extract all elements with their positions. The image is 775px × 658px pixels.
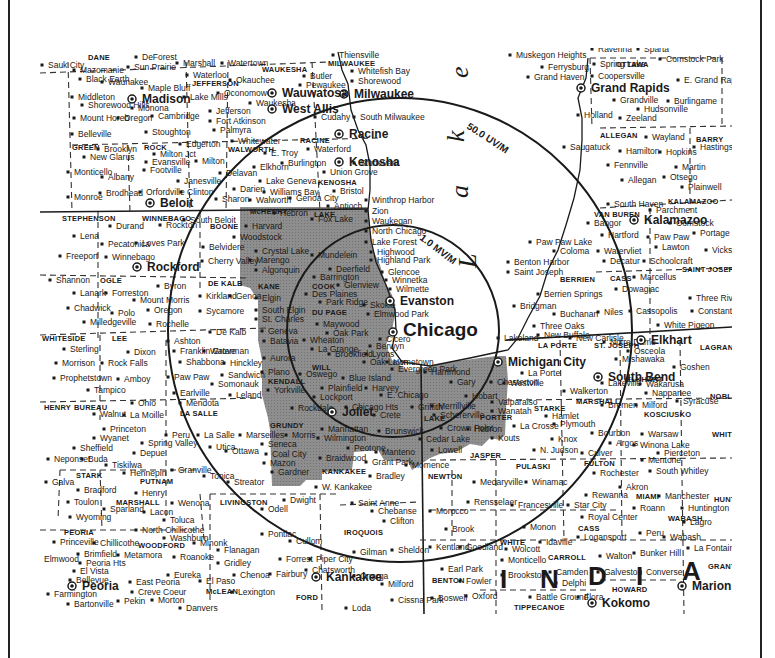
city-label: Lake Geneva	[259, 176, 317, 186]
city-marker-icon	[261, 533, 264, 536]
city-label: Coopersville	[591, 71, 646, 81]
major-city-name: Joliet	[342, 405, 373, 419]
city-marker-icon	[180, 191, 183, 194]
city-label: La Fontaine	[687, 543, 740, 553]
county-label-text: KANKAKEE	[322, 467, 366, 476]
city-label: Oregon	[147, 305, 183, 315]
city-label: Fairbury	[269, 569, 308, 579]
city-marker-icon	[147, 309, 150, 312]
county-label-text: KANE	[258, 282, 280, 291]
city-label-text: Marcellus	[640, 272, 676, 282]
city-label: Whitefish Bay	[351, 66, 411, 76]
city-label: Waterman	[203, 346, 250, 356]
city-marker-icon	[67, 501, 70, 504]
city-marker-icon	[71, 133, 74, 136]
city-label-text: Paw Paw Lake	[536, 237, 592, 247]
city-label: Marcellus	[633, 272, 677, 282]
city-marker-icon	[553, 313, 556, 316]
lake-label-a: a	[445, 185, 474, 198]
city-marker-icon	[467, 428, 470, 431]
city-marker-icon	[209, 110, 212, 113]
city-label-text: Decatur	[610, 256, 640, 266]
city-label: St. Charles	[255, 314, 305, 324]
city-marker-icon	[365, 461, 368, 464]
city-label-text: Mendota	[186, 398, 219, 408]
city-label: Toulon	[67, 497, 100, 507]
county-label-text: WAUKESHA	[262, 65, 308, 74]
city-marker-icon	[305, 293, 308, 296]
city-label: Grandville	[613, 95, 659, 105]
city-label: Ashton	[167, 336, 201, 346]
city-label: Edgerton	[179, 139, 221, 149]
city-label-text: Kirkland	[206, 291, 237, 301]
city-marker-icon	[289, 197, 292, 200]
city-label-text: Shannon	[56, 275, 90, 285]
city-marker-icon	[73, 117, 76, 120]
city-label-text: Grandville	[620, 95, 659, 105]
city-label-text: Walton	[606, 551, 632, 561]
city-label-text: Momence	[412, 460, 450, 470]
city-label: Monticello	[501, 555, 547, 565]
county-label-text: JEFFERSON	[192, 79, 239, 88]
major-city-name: Racine	[349, 127, 389, 141]
city-marker-icon	[221, 62, 224, 65]
city-label: South Milwaukee	[353, 112, 426, 122]
major-city-label: Grand Rapids	[577, 81, 670, 95]
city-marker-icon	[593, 472, 596, 475]
city-label-text: Oswego	[306, 369, 337, 379]
city-marker-icon	[83, 156, 86, 159]
major-city-name: Marion	[692, 579, 731, 593]
city-marker-icon	[370, 259, 373, 262]
city-label-text: Whitewater	[238, 136, 281, 146]
city-marker-icon	[380, 394, 383, 397]
city-marker-icon	[133, 299, 136, 302]
city-marker-icon	[239, 434, 242, 437]
city-marker-icon	[581, 452, 584, 455]
city-marker-icon	[424, 371, 427, 374]
city-marker-icon	[593, 63, 596, 66]
county-label: PEORIA	[64, 528, 94, 537]
city-marker-icon	[450, 381, 453, 384]
city-marker-icon	[433, 414, 436, 417]
city-label: Rochester	[593, 468, 639, 478]
city-marker-icon	[117, 378, 120, 381]
city-marker-icon	[209, 120, 212, 123]
city-marker-icon	[511, 504, 514, 507]
city-marker-icon	[342, 377, 345, 380]
city-marker-icon	[378, 430, 381, 433]
city-marker-icon	[135, 492, 138, 495]
city-label-text: N. Judson	[540, 445, 579, 455]
city-label: Nappanee	[645, 388, 692, 398]
major-city-label: South Bend	[594, 370, 675, 384]
city-label-text: Three Rivers	[696, 293, 745, 303]
city-label: Three Rivers	[689, 293, 745, 303]
city-label: Bourbon	[591, 428, 631, 438]
city-marker-icon	[663, 176, 666, 179]
city-marker-icon	[533, 449, 536, 452]
city-label-text: Galveston	[604, 567, 643, 577]
city-marker-icon	[131, 402, 134, 405]
city-marker-icon	[523, 526, 526, 529]
city-label: Rewanna	[585, 490, 629, 500]
city-label-text: Toulon	[74, 497, 99, 507]
city-marker-icon	[587, 222, 590, 225]
city-marker-icon	[263, 357, 266, 360]
city-marker-icon	[145, 161, 148, 164]
city-marker-icon	[367, 313, 370, 316]
city-marker-icon	[431, 449, 434, 452]
city-marker-icon	[353, 116, 356, 119]
city-label-text: Muskegon Heights	[516, 50, 586, 60]
major-city-name: Wauwatosa	[282, 86, 348, 100]
city-marker-icon	[541, 66, 544, 69]
city-label-text: Durand	[116, 221, 144, 231]
city-label: Clifton	[383, 516, 415, 526]
city-label-text: Belvidere	[209, 242, 245, 252]
city-label: La Crosse	[513, 421, 560, 431]
city-marker-icon	[365, 199, 368, 202]
city-label: Dixon	[127, 347, 157, 357]
city-marker-icon	[143, 511, 146, 514]
city-label: Goshen	[673, 362, 711, 372]
major-city-name: Kenosha	[349, 155, 400, 169]
city-label: New Buffalo	[537, 330, 590, 340]
city-marker-icon	[101, 81, 104, 84]
